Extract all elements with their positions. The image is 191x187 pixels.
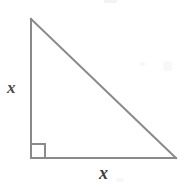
triangle-hypotenuse	[31, 19, 176, 158]
right-angle-marker-icon	[31, 144, 45, 158]
horizontal-side-label: x	[99, 164, 108, 182]
figure-canvas: x x	[0, 0, 191, 187]
right-triangle-graphic	[0, 0, 191, 187]
vertical-side-label: x	[7, 79, 16, 96]
